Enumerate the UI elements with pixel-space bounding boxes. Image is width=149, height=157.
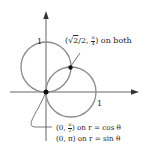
intersection-suffix: on both: [98, 36, 131, 45]
intersection-point: [68, 65, 72, 69]
x-axis-arrow-icon: [131, 89, 139, 94]
leader-line-origin: [31, 93, 52, 127]
y-tick-label: 1: [37, 38, 42, 46]
y-axis-arrow-icon: [43, 11, 48, 19]
origin-point: [44, 90, 49, 95]
origin-cos-prefix: (0,: [56, 123, 68, 132]
origin-cos-label: (0, π2) on r = cos θ: [56, 123, 121, 133]
origin-cos-suffix: ) on r = cos θ: [72, 123, 121, 132]
leader-line-intersection: [71, 53, 80, 66]
x-tick-label: 1: [97, 100, 102, 108]
intersection-after-sqrt: /2,: [78, 36, 91, 45]
intersection-label: (√2/2, π4) on both: [65, 36, 132, 46]
origin-sin-label: (0, π) on r = sin θ: [56, 135, 120, 142]
